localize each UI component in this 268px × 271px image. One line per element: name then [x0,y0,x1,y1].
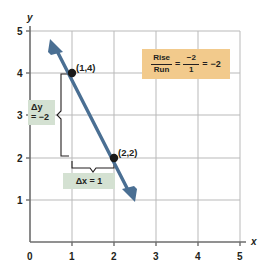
delta-x-text: Δx = 1 [76,176,103,186]
slope-result: −2 [211,59,221,69]
rise-label: Rise [151,54,172,62]
x-tick-0: 0 [27,252,33,262]
delta-y-line1: Δy [31,102,42,112]
x-tick-2: 2 [111,252,117,262]
x-tick-5: 5 [237,252,243,262]
x-tick-3: 3 [153,252,159,262]
numeric-fraction: −2 1 [183,54,199,74]
delta-y-annotation: Δy = −2 [28,100,55,125]
equals-sign-1: = [175,59,180,69]
denominator-value: 1 [187,66,195,74]
y-tick-5: 5 [17,27,23,37]
coordinate-graph-figure: y x 5 4 3 2 1 0 1 2 3 4 5 (1,4) (2,2) Δy… [0,0,268,271]
point-label-1-4: (1,4) [76,63,96,73]
rise-over-run-fraction: Rise Run [151,54,172,74]
y-tick-1: 1 [17,196,23,206]
equals-sign-2: = [202,59,207,69]
data-point-2-2 [110,154,118,162]
delta-x-brace [72,161,114,172]
data-point-1-4 [68,69,76,77]
y-axis-label: y [27,13,33,23]
delta-y-line2: = −2 [31,112,49,122]
x-tick-1: 1 [69,252,75,262]
slope-formula-box: Rise Run = −2 1 = −2 [142,49,230,79]
run-label: Run [152,66,172,74]
y-tick-4: 4 [17,69,23,79]
plot-canvas [0,0,268,271]
y-tick-3: 3 [17,111,23,121]
x-tick-4: 4 [195,252,201,262]
delta-x-annotation: Δx = 1 [63,173,115,189]
x-axis-label: x [251,237,257,247]
y-tick-2: 2 [17,154,23,164]
numerator-value: −2 [185,54,198,62]
point-label-2-2: (2,2) [118,148,138,158]
